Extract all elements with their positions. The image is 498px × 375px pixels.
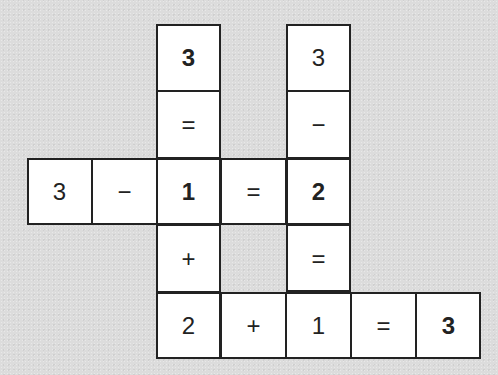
cell-value: 3 <box>182 44 195 72</box>
puzzle-cell-r2-c4[interactable]: 2 <box>286 158 351 225</box>
puzzle-board: 33=−3−1=2+=2+1=3 <box>0 0 498 375</box>
cell-value: + <box>246 312 260 340</box>
puzzle-cell-r4-c5[interactable]: = <box>351 292 416 359</box>
puzzle-cell-r1-c2[interactable]: = <box>156 91 221 158</box>
puzzle-cell-r2-c0[interactable]: 3 <box>27 158 92 225</box>
cell-value: 3 <box>53 178 66 206</box>
cell-value: 3 <box>312 44 325 72</box>
puzzle-cell-r1-c4[interactable]: − <box>286 91 351 158</box>
puzzle-cell-r3-c2[interactable]: + <box>156 225 221 292</box>
puzzle-cell-r4-c6[interactable]: 3 <box>416 292 481 359</box>
cell-value: 3 <box>442 312 455 340</box>
cell-value: 1 <box>312 312 325 340</box>
cell-value: = <box>311 245 325 273</box>
puzzle-cell-r4-c4[interactable]: 1 <box>286 292 351 359</box>
puzzle-cell-r0-c2[interactable]: 3 <box>156 24 221 91</box>
cell-value: 2 <box>312 178 325 206</box>
cell-value: = <box>246 178 260 206</box>
cell-value: − <box>311 111 325 139</box>
cell-value: 2 <box>182 312 195 340</box>
puzzle-cell-r2-c1[interactable]: − <box>92 158 157 225</box>
puzzle-cell-r4-c3[interactable]: + <box>221 292 286 359</box>
cell-value: = <box>181 111 195 139</box>
puzzle-cell-r2-c2[interactable]: 1 <box>156 158 221 225</box>
cell-value: 1 <box>182 178 195 206</box>
cell-value: − <box>117 178 131 206</box>
puzzle-cell-r2-c3[interactable]: = <box>221 158 286 225</box>
cell-value: = <box>376 312 390 340</box>
puzzle-cell-r0-c4[interactable]: 3 <box>286 24 351 91</box>
puzzle-cell-r4-c2[interactable]: 2 <box>156 292 221 359</box>
puzzle-cell-r3-c4[interactable]: = <box>286 225 351 292</box>
cell-value: + <box>181 245 195 273</box>
